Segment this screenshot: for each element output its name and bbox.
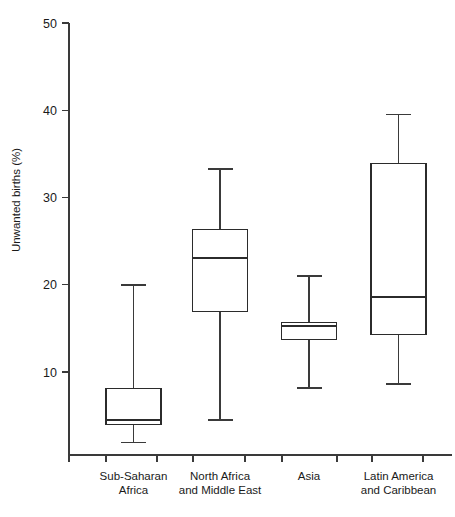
x-axis-ticks	[69, 455, 423, 462]
boxplot-box	[371, 115, 426, 385]
x-axis: Sub-SaharanAfricaNorth Africaand Middle …	[69, 455, 452, 496]
y-tick-label: 20	[43, 278, 57, 292]
y-tick-label: 50	[43, 17, 57, 31]
x-axis-category-label: Asia	[298, 470, 321, 482]
x-axis-category-label: Sub-SaharanAfrica	[100, 470, 168, 496]
y-axis-title: Unwanted births (%)	[10, 148, 22, 252]
iqr-box	[371, 163, 426, 334]
boxplot-box	[282, 276, 337, 388]
iqr-box	[106, 389, 161, 425]
boxplot-box	[193, 169, 248, 420]
y-axis-ticks: 1020304050	[43, 17, 69, 380]
boxplot-chart: 1020304050 Unwanted births (%) Sub-Sahar…	[0, 0, 455, 517]
y-tick-label: 30	[43, 191, 57, 205]
x-axis-category-label: Latin Americaand Caribbean	[361, 470, 436, 496]
y-axis: 1020304050 Unwanted births (%)	[10, 17, 69, 456]
iqr-box	[282, 322, 337, 339]
y-tick-label: 10	[43, 366, 57, 380]
box-series	[106, 115, 426, 443]
x-axis-category-labels: Sub-SaharanAfricaNorth Africaand Middle …	[100, 470, 437, 496]
boxplot-svg: 1020304050 Unwanted births (%) Sub-Sahar…	[0, 0, 455, 517]
x-axis-category-label: North Africaand Middle East	[179, 470, 262, 496]
iqr-box	[193, 230, 248, 312]
boxplot-box	[106, 285, 161, 443]
y-tick-label: 40	[43, 104, 57, 118]
